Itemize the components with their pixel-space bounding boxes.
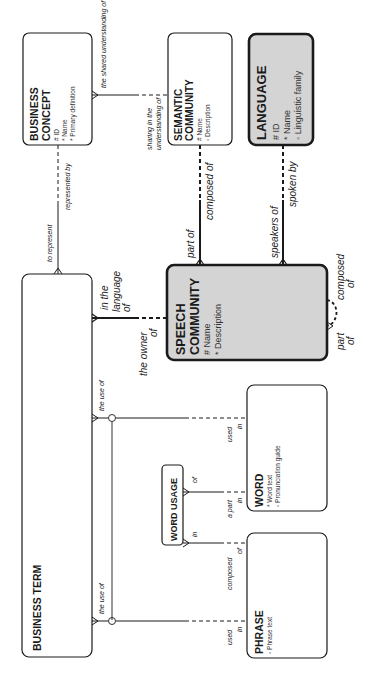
label-the-use-of-phrase: the use of xyxy=(98,582,105,614)
label-the-owner: the owner xyxy=(138,331,149,376)
language-attr-id: # ID xyxy=(271,123,281,140)
rel-speech-self: composed of part of xyxy=(327,253,356,351)
language-title: LANGUAGE xyxy=(254,65,269,140)
business-concept-attr-name: * Name xyxy=(61,119,68,141)
rel-concept-term: represented by to represent xyxy=(46,145,72,274)
rel-language-speech: spoken by speakers of xyxy=(269,145,298,265)
language-attr-family: ◦ Linguistic family xyxy=(293,70,303,140)
phrase-title: PHRASE xyxy=(253,610,265,654)
label-used-word: used xyxy=(226,426,233,442)
label-used-phrase: used xyxy=(226,629,233,645)
rel-term-phrase: the use of used in xyxy=(92,582,247,645)
word-attr-text: * Word text xyxy=(266,475,273,507)
rel-concept-semantic: the shared understanding of sharing in t… xyxy=(92,0,168,150)
business-concept-title-1: BUSINESS xyxy=(28,87,40,141)
phrase-attr-text: ◦ Phrase text xyxy=(266,617,273,654)
entity-business-concept[interactable]: BUSINESS CONCEPT # ID * Name * Primary d… xyxy=(23,33,92,145)
business-concept-attr-definition: * Primary definition xyxy=(69,86,77,141)
label-part-of: part of xyxy=(185,228,196,259)
entity-phrase[interactable]: PHRASE ◦ Phrase text xyxy=(247,533,327,658)
label-composed-phrase: composed xyxy=(226,557,234,590)
entity-language[interactable]: LANGUAGE # ID * Name ◦ Linguistic family xyxy=(249,34,313,145)
speech-community-title-2: COMMUNITY xyxy=(188,277,202,355)
speech-community-attr-description: * Description xyxy=(213,304,223,355)
label-owner-of: of xyxy=(148,327,159,337)
label-in-phrase: in xyxy=(236,626,243,632)
semantic-community-attr-name: # Name xyxy=(196,118,203,141)
label-composed-of: composed of xyxy=(204,162,215,220)
speech-community-title-1: SPEECH xyxy=(174,304,188,355)
label-in-word: in xyxy=(236,423,243,429)
label-represented-by: represented by xyxy=(64,163,72,210)
label-sharing-in-the: sharing in the xyxy=(146,108,154,150)
er-diagram: BUSINESS CONCEPT # ID * Name * Primary d… xyxy=(0,0,365,680)
entity-word[interactable]: WORD * Word text ◦ Pronunciation guide xyxy=(247,385,327,511)
rel-semantic-speech: composed of part of xyxy=(185,145,215,265)
business-term-title: BUSINESS TERM xyxy=(31,564,43,651)
entity-business-term[interactable]: BUSINESS TERM xyxy=(22,274,92,657)
semantic-community-title-2: COMMUNITY xyxy=(184,79,195,141)
entity-word-usage[interactable]: WORD USAGE xyxy=(162,465,183,545)
business-concept-attr-id: # ID xyxy=(53,129,60,141)
word-title: WORD xyxy=(253,473,265,507)
semantic-community-title-1: SEMANTIC xyxy=(173,89,184,141)
label-composed-of-2: of xyxy=(345,278,356,288)
rel-usage-word: of a part in xyxy=(183,476,247,518)
label-to-represent: to represent xyxy=(46,224,54,262)
business-concept-title-2: CONCEPT xyxy=(40,89,52,141)
label-in-a-part: in xyxy=(236,497,243,503)
label-in-usage: in xyxy=(191,531,198,537)
label-the-shared-understanding-of: the shared understanding of xyxy=(100,0,108,88)
label-of-phrase: of xyxy=(236,547,243,554)
rel-usage-phrase: in composed of xyxy=(183,531,247,590)
word-attr-pronunciation: ◦ Pronunciation guide xyxy=(274,445,282,507)
entity-semantic-community[interactable]: SEMANTIC COMMUNITY # Name ◦ Description xyxy=(168,33,232,145)
speech-community-attr-name: # Name xyxy=(202,323,212,355)
language-attr-name: * Name xyxy=(282,110,292,140)
label-of: of xyxy=(121,302,132,312)
label-spoken-by: spoken by xyxy=(287,160,298,207)
label-part-of-2: of xyxy=(345,335,356,345)
rel-term-speech: in the language of the owner of xyxy=(92,270,167,376)
label-in-the: in the xyxy=(99,285,110,310)
label-understanding-of: understanding of xyxy=(155,97,163,150)
semantic-community-attr-description: ◦ Description xyxy=(204,104,212,141)
label-speakers-of: speakers of xyxy=(269,205,280,258)
entity-speech-community[interactable]: SPEECH COMMUNITY # Name * Description xyxy=(167,265,327,360)
word-usage-title: WORD USAGE xyxy=(169,478,179,541)
label-the-use-of-word: the use of xyxy=(98,379,105,411)
label-of-usage: of xyxy=(191,476,198,483)
label-a-part: a part xyxy=(226,499,234,518)
label-composed: composed xyxy=(335,253,346,300)
optional-circle-icon xyxy=(109,415,116,422)
